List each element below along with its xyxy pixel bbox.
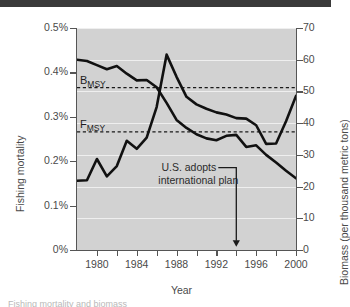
figure-caption-partial: Fishing mortality and biomass: [8, 299, 338, 307]
y-axis-left-title: Fishing mortality: [14, 136, 26, 212]
x-tick-label: 1992: [196, 258, 236, 270]
x-tick-label: 1988: [157, 258, 197, 270]
y-axis-right-title: Biomass (per thousand metric tons): [338, 119, 350, 285]
x-tick-label: 1996: [236, 258, 276, 270]
x-tick-label: 1980: [77, 258, 117, 270]
x-axis-title-text: Year: [171, 284, 192, 296]
x-tick-label: 1984: [117, 258, 157, 270]
x-axis-title: Year: [0, 284, 345, 296]
x-tick-label: 2000: [276, 258, 316, 270]
